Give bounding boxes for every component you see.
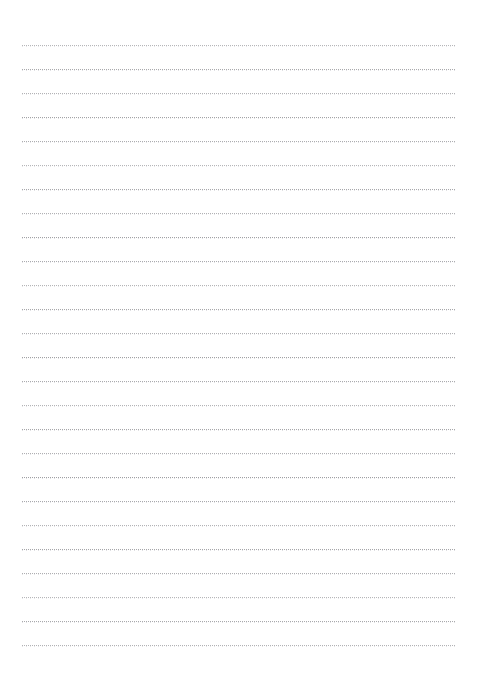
rule-line — [22, 333, 456, 334]
rule-line — [22, 357, 456, 358]
rule-line — [22, 573, 456, 574]
rule-line — [22, 285, 456, 286]
rule-line — [22, 405, 456, 406]
rule-line — [22, 69, 456, 70]
rule-line — [22, 213, 456, 214]
rule-line — [22, 597, 456, 598]
rule-line — [22, 429, 456, 430]
rule-line — [22, 261, 456, 262]
rule-line — [22, 621, 456, 622]
rule-line — [22, 189, 456, 190]
rule-line — [22, 309, 456, 310]
rule-line — [22, 645, 456, 646]
rule-line — [22, 141, 456, 142]
ruling-lines-layer — [0, 0, 478, 678]
rule-line — [22, 381, 456, 382]
rule-line — [22, 93, 456, 94]
rule-line — [22, 45, 456, 46]
lined-paper-page — [0, 0, 478, 678]
rule-line — [22, 477, 456, 478]
rule-line — [22, 525, 456, 526]
rule-line — [22, 501, 456, 502]
rule-line — [22, 453, 456, 454]
rule-line — [22, 549, 456, 550]
rule-line — [22, 237, 456, 238]
rule-line — [22, 165, 456, 166]
rule-line — [22, 117, 456, 118]
